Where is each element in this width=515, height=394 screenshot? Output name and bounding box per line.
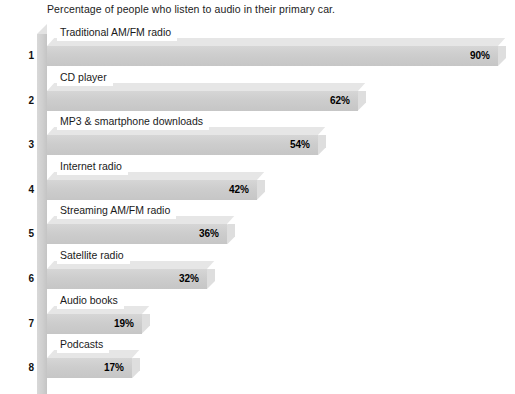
bar-index-label: 5 <box>18 228 34 239</box>
bar-category-label: CD player <box>57 69 113 86</box>
bar-end-cap <box>257 180 265 200</box>
bar-end-cap <box>227 224 235 244</box>
bar-category-label: Streaming AM/FM radio <box>57 202 176 219</box>
bar-value-label: 19% <box>76 318 134 329</box>
chart-root: Percentage of people who listen to audio… <box>0 0 515 394</box>
bar-index-label: 8 <box>18 362 34 373</box>
bar-front-face[interactable] <box>47 46 498 66</box>
plot-area: 190%Traditional AM/FM radio262%CD player… <box>0 24 515 394</box>
bar-end-cap <box>358 91 366 111</box>
bar-category-label: MP3 & smartphone downloads <box>57 113 209 130</box>
bar-value-label: 62% <box>292 95 350 106</box>
axis-wall-top-face <box>37 24 47 34</box>
bar-category-label: Audio books <box>57 292 124 309</box>
bar-index-label: 1 <box>18 50 34 61</box>
bar-index-label: 3 <box>18 139 34 150</box>
bar-value-label: 90% <box>432 50 490 61</box>
bar-end-cap <box>142 314 150 334</box>
bar-index-label: 7 <box>18 318 34 329</box>
bar-value-label: 32% <box>141 273 199 284</box>
bar-category-label: Satellite radio <box>57 247 130 264</box>
bar-category-label: Traditional AM/FM radio <box>57 24 177 41</box>
bar-index-label: 4 <box>18 184 34 195</box>
bar-value-label: 36% <box>161 228 219 239</box>
bar-index-label: 6 <box>18 273 34 284</box>
bar-category-label: Internet radio <box>57 158 128 175</box>
axis-left-wall <box>37 34 47 394</box>
chart-title: Percentage of people who listen to audio… <box>47 3 335 15</box>
bar-value-label: 54% <box>252 139 310 150</box>
bar-end-cap <box>132 358 140 378</box>
bar-end-cap <box>318 135 326 155</box>
bar-value-label: 17% <box>66 362 124 373</box>
bar-index-label: 2 <box>18 95 34 106</box>
bar-end-cap <box>498 46 506 66</box>
bar-end-cap <box>207 269 215 289</box>
bar-value-label: 42% <box>191 184 249 195</box>
bar-category-label: Podcasts <box>57 336 109 353</box>
